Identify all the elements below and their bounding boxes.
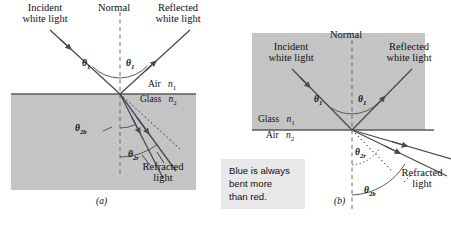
panel-a-caption: (a)	[96, 197, 107, 207]
figure-container: Incident white light Normal Reflected wh…	[0, 0, 451, 225]
panel-b-incident-label: Incident white light	[256, 42, 326, 64]
callout-line-2: bent more	[229, 178, 298, 191]
panel-b-upper-medium-sub: 1	[291, 119, 294, 126]
panel-b-refracted-line2: light	[393, 179, 451, 190]
panel-b-angle-theta2r: θ2r	[355, 148, 366, 159]
panel-a-angle-theta2r: θ2r	[128, 150, 139, 161]
callout-box: Blue is always bent more than red.	[221, 159, 305, 209]
panel-a-reflected-label: Reflected white light	[140, 3, 216, 25]
panel-b-reflected-line2: white light	[372, 53, 446, 64]
panel-a-angle-theta1-incident: θ1	[82, 59, 90, 70]
panel-a-refracted-line2: light	[130, 173, 196, 184]
panel-a-lower-medium-sub: 2	[173, 99, 176, 106]
panel-b-angle-theta1-incident: θ1	[314, 95, 322, 106]
panel-b-normal-label: Normal	[330, 30, 362, 41]
panel-a-theta1i-sub: 1	[87, 63, 90, 70]
panel-b-caption: (b)	[334, 197, 345, 207]
panel-a-incident-line2: white light	[9, 14, 81, 25]
panel-b-refracted-red-arrow	[392, 142, 406, 146]
panel-b-lower-medium-label: Air n2	[266, 131, 294, 142]
panel-b-lower-medium-sub: 2	[291, 135, 294, 142]
panel-b-refracted-label: Refracted light	[393, 168, 451, 190]
callout-line-1: Blue is always	[229, 165, 298, 178]
panel-b-theta1r-sub: 1	[363, 99, 366, 106]
panel-a-upper-medium-label: Air n1	[148, 80, 176, 91]
panel-a-incident-label: Incident white light	[9, 3, 81, 25]
panel-a-upper-medium-sub: 1	[173, 84, 176, 91]
panel-b-theta2r-sub: 2r	[360, 152, 366, 159]
panel-b-upper-medium-name: Glass	[258, 114, 279, 124]
panel-a-theta2r-sub: 2r	[133, 154, 139, 161]
panel-b-reflected-label: Reflected white light	[372, 42, 446, 64]
panel-a-theta1r-sub: 1	[131, 63, 134, 70]
panel-b-lower-medium-name: Air	[266, 130, 279, 140]
panel-a-incident-arrow	[60, 39, 70, 48]
panel-a-refracted-label: Refracted light	[130, 162, 196, 184]
panel-b-incident-line2: white light	[256, 53, 326, 64]
panel-a-lower-medium-label: Glass n2	[140, 95, 177, 106]
panel-a-upper-medium-name: Air	[148, 79, 161, 89]
panel-a-angle-theta1-reflected: θ1	[126, 59, 134, 70]
panel-b-theta2b-sub: 2b	[369, 190, 376, 197]
panel-b-angle-theta2b: θ2b	[364, 186, 376, 197]
panel-b-refracted-blue-arrow	[385, 146, 399, 153]
panel-a-angle-theta2b: θ2b	[75, 124, 87, 135]
callout-line-3: than red.	[229, 191, 298, 204]
panel-a-normal-label: Normal	[98, 3, 130, 14]
panel-b-angle-theta1-reflected: θ1	[358, 95, 366, 106]
panel-b-upper-medium-label: Glass n1	[258, 115, 295, 126]
panel-b-theta1i-sub: 1	[319, 99, 322, 106]
panel-a-reflected-line2: white light	[140, 14, 216, 25]
panel-a-theta2b-sub: 2b	[80, 128, 87, 135]
panel-a-lower-medium-name: Glass	[140, 94, 161, 104]
